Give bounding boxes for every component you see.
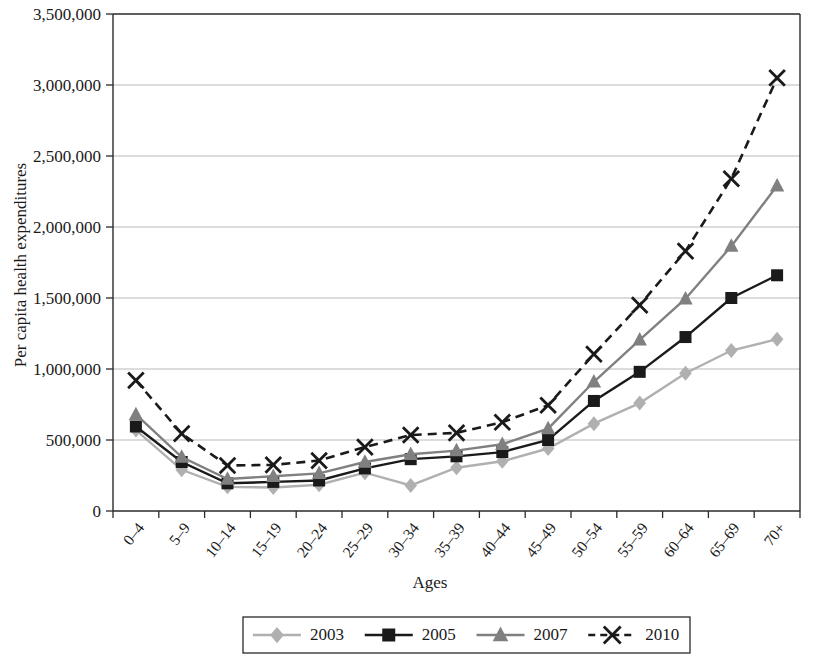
data-point-marker — [725, 343, 738, 358]
legend-marker-square-icon — [382, 629, 395, 642]
data-point-marker — [404, 478, 417, 493]
y-axis-title: Per capita health expenditures — [11, 163, 30, 367]
x-axis-ticks — [113, 511, 800, 518]
x-tick-label: 30–34 — [385, 519, 422, 560]
x-tick-label: 20–24 — [293, 519, 330, 560]
data-point-marker — [128, 373, 144, 389]
x-tick-label: 0–4 — [120, 519, 148, 548]
x-tick-label: 25–29 — [339, 519, 376, 560]
x-tick-label: 5–9 — [165, 519, 193, 548]
x-tick-label: 10–14 — [202, 519, 239, 560]
series-line-2010 — [136, 78, 777, 466]
data-point-marker — [588, 395, 600, 407]
data-point-marker — [632, 297, 648, 313]
plot-frame — [113, 14, 800, 511]
data-series-layer — [128, 70, 785, 495]
legend-label-2010: 2010 — [645, 625, 679, 644]
data-point-marker — [770, 178, 784, 192]
x-tick-label: 60–64 — [660, 519, 697, 560]
data-point-marker — [769, 70, 785, 86]
y-tick-label: 500,000 — [46, 431, 101, 450]
data-point-marker — [588, 416, 601, 431]
x-tick-label: 70+ — [760, 519, 788, 549]
x-tick-label: 65–69 — [705, 519, 742, 560]
data-point-marker — [771, 269, 783, 281]
line-chart: 0500,0001,000,0001,500,0002,000,0002,500… — [0, 0, 814, 658]
data-point-marker — [633, 396, 646, 411]
y-tick-label: 3,000,000 — [33, 76, 101, 95]
data-point-marker — [771, 332, 784, 347]
data-point-marker — [680, 331, 692, 343]
data-point-marker — [450, 460, 463, 475]
gridlines — [113, 85, 800, 440]
y-tick-label: 2,500,000 — [33, 147, 101, 166]
data-point-marker — [130, 421, 142, 433]
x-tick-label: 45–49 — [522, 519, 559, 560]
data-point-marker — [724, 171, 740, 187]
data-point-marker — [679, 366, 692, 381]
x-tick-label: 40–44 — [476, 519, 513, 560]
chart-figure: 0500,0001,000,0001,500,0002,000,0002,500… — [0, 0, 814, 658]
y-tick-label: 1,000,000 — [33, 360, 101, 379]
y-tick-label: 2,000,000 — [33, 218, 101, 237]
y-tick-label: 0 — [93, 502, 102, 521]
data-point-marker — [678, 243, 694, 259]
x-tick-label: 15–19 — [247, 519, 284, 560]
y-tick-label: 1,500,000 — [33, 289, 101, 308]
x-tick-label: 50–54 — [568, 519, 605, 560]
data-point-marker — [634, 366, 646, 378]
legend-label-2007: 2007 — [534, 625, 569, 644]
series-2003 — [130, 332, 784, 495]
x-tick-label: 55–59 — [614, 519, 651, 560]
x-axis-title: Ages — [413, 573, 448, 592]
x-tick-label: 35–39 — [431, 519, 468, 560]
data-point-marker — [129, 407, 143, 421]
data-point-marker — [586, 346, 602, 362]
x-axis-tick-labels: 0–45–910–1415–1920–2425–2930–3435–3940–4… — [120, 519, 789, 560]
y-axis-ticks: 0500,0001,000,0001,500,0002,000,0002,500… — [33, 5, 113, 521]
series-2010 — [128, 70, 785, 473]
y-tick-label: 3,500,000 — [33, 5, 101, 24]
data-point-marker — [220, 458, 236, 474]
legend-label-2003: 2003 — [310, 625, 344, 644]
data-point-marker — [542, 434, 554, 446]
data-point-marker — [174, 426, 190, 442]
data-point-marker — [357, 439, 373, 455]
data-point-marker — [725, 292, 737, 304]
data-point-marker — [495, 414, 511, 430]
chart-legend: 2003200520072010 — [243, 617, 690, 653]
data-point-marker — [540, 397, 556, 413]
legend-label-2005: 2005 — [422, 625, 456, 644]
